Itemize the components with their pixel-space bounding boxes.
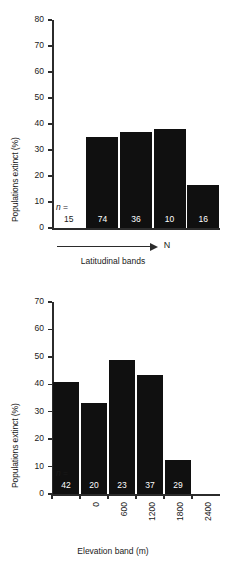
y-tick-mark xyxy=(48,19,52,20)
sample-size-label-bottom: n = xyxy=(56,468,68,478)
y-tick-label: 0 xyxy=(10,488,44,498)
y-tick-label: 60 xyxy=(10,66,44,76)
y-tick-mark xyxy=(48,45,52,46)
y-tick-label: 10 xyxy=(10,196,44,206)
x-tick-label: 1800 xyxy=(175,502,185,536)
bar xyxy=(120,132,152,228)
y-tick-label: 50 xyxy=(10,92,44,102)
direction-label-north: N xyxy=(164,240,171,250)
x-axis-label-top: Latitudinal bands xyxy=(0,256,226,266)
y-tick-mark xyxy=(48,301,52,302)
y-tick-label: 70 xyxy=(10,296,44,306)
bar xyxy=(154,129,186,228)
y-tick-label: 40 xyxy=(10,378,44,388)
n-equals-bottom: = xyxy=(61,468,68,478)
x-tick-label: 0 xyxy=(91,502,101,536)
y-tick-label: 60 xyxy=(10,323,44,333)
n-equals-top: = xyxy=(61,202,68,212)
y-tick-mark xyxy=(48,466,52,467)
x-tick-label: 600 xyxy=(119,502,129,536)
x-tick-mark xyxy=(163,495,164,499)
y-tick-label: 80 xyxy=(10,14,44,24)
chart-latitudinal-bands: Populations extinct (%) 0102030405060708… xyxy=(0,0,226,290)
direction-arrow-north xyxy=(57,242,158,252)
bar xyxy=(137,375,163,494)
bar xyxy=(86,137,118,228)
figure-two-bar-charts: Populations extinct (%) 0102030405060708… xyxy=(0,0,226,575)
y-tick-mark xyxy=(48,175,52,176)
y-tick-label: 20 xyxy=(10,433,44,443)
bar xyxy=(187,185,219,228)
x-tick-mark xyxy=(135,495,136,499)
x-tick-mark xyxy=(107,495,108,499)
y-tick-label: 50 xyxy=(10,351,44,361)
y-tick-mark xyxy=(48,384,52,385)
chart-elevation-band: Populations extinct (%) 010203040506070 … xyxy=(0,288,226,575)
y-tick-label: 30 xyxy=(10,144,44,154)
x-axis-label-bottom: Elevation band (m) xyxy=(0,546,226,556)
y-tick-mark xyxy=(48,227,52,228)
y-tick-mark xyxy=(48,411,52,412)
y-tick-mark xyxy=(48,356,52,357)
x-tick-mark xyxy=(191,495,192,499)
y-tick-mark xyxy=(48,201,52,202)
x-tick-label: 2400 xyxy=(203,502,213,536)
sample-size-label-top: n = xyxy=(56,202,68,212)
y-tick-label: 30 xyxy=(10,406,44,416)
y-tick-mark xyxy=(48,97,52,98)
y-tick-label: 70 xyxy=(10,40,44,50)
y-axis-line-top xyxy=(52,20,54,228)
y-tick-mark xyxy=(48,123,52,124)
y-tick-mark xyxy=(48,438,52,439)
bar xyxy=(165,460,191,494)
y-tick-label: 40 xyxy=(10,118,44,128)
y-tick-mark xyxy=(48,329,52,330)
bar xyxy=(81,403,107,494)
x-tick-mark xyxy=(51,495,52,499)
y-tick-mark xyxy=(48,149,52,150)
y-axis-label-bottom: Populations extinct (%) xyxy=(10,403,20,488)
sample-size-value: 15 xyxy=(52,214,86,224)
y-tick-label: 10 xyxy=(10,461,44,471)
x-tick-label: 1200 xyxy=(147,502,157,536)
x-axis-line-top xyxy=(52,228,220,230)
x-tick-mark xyxy=(79,495,80,499)
y-tick-mark xyxy=(48,71,52,72)
y-tick-label: 0 xyxy=(10,222,44,232)
y-tick-label: 20 xyxy=(10,170,44,180)
arrow-shaft-icon xyxy=(57,246,151,247)
bar xyxy=(109,360,135,494)
arrow-head-icon xyxy=(150,243,158,251)
